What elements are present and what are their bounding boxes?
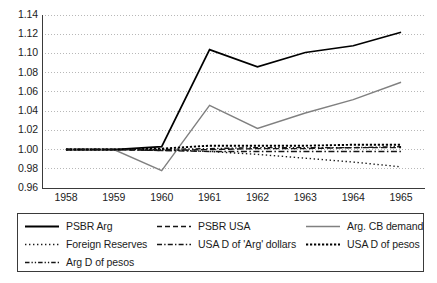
legend-line-swatch (25, 221, 59, 232)
y-axis-tick-label: 1.08 (0, 67, 38, 78)
series-line (66, 32, 401, 149)
legend-item: Arg D of pesos (25, 254, 134, 270)
legend-items: PSBR ArgPSBR USAArg. CB demandForeign Re… (18, 214, 423, 271)
legend-item: PSBR USA (157, 218, 250, 234)
legend-line-swatch (25, 257, 59, 268)
legend-item-label: Arg D of pesos (66, 256, 134, 268)
legend-line-swatch (157, 221, 191, 232)
y-axis-tick-label: 1.06 (0, 86, 38, 97)
y-axis-tick-label: 1.14 (0, 9, 38, 20)
series-line (66, 82, 401, 170)
legend-item-label: Arg. CB demand (347, 220, 423, 232)
legend-item-label: PSBR USA (198, 220, 250, 232)
legend-item: Foreign Reserves (25, 236, 147, 252)
chart-canvas (0, 0, 437, 205)
legend-item-label: PSBR Arg (66, 220, 112, 232)
legend-item-label: USA D of pesos (347, 238, 420, 250)
legend-line-swatch (306, 239, 340, 250)
plot-area: 1.141.121.101.081.061.041.021.000.980.96… (0, 0, 437, 205)
gridlines (42, 15, 425, 169)
legend-item: Arg. CB demand (306, 218, 423, 234)
legend-line-swatch (25, 239, 59, 250)
legend-line-swatch (157, 239, 191, 250)
series-lines (66, 32, 401, 170)
chart-root: 1.141.121.101.081.061.041.021.000.980.96… (0, 0, 437, 283)
y-axis-tick-label: 1.12 (0, 28, 38, 39)
chart-legend: PSBR ArgPSBR USAArg. CB demandForeign Re… (17, 213, 424, 272)
y-axis-tick-label: 1.10 (0, 47, 38, 58)
legend-line-swatch (306, 221, 340, 232)
y-axis-tick-label: 1.04 (0, 105, 38, 116)
y-axis-tick-label: 0.96 (0, 182, 38, 193)
y-axis-tick-label: 0.98 (0, 163, 38, 174)
legend-item: PSBR Arg (25, 218, 112, 234)
legend-item: USA D of 'Arg' dollars (157, 236, 296, 252)
legend-item: USA D of pesos (306, 236, 420, 252)
y-axis-tick-label: 1.00 (0, 144, 38, 155)
x-axis-tick-label: 1965 (371, 192, 431, 203)
legend-item-label: Foreign Reserves (66, 238, 147, 250)
legend-item-label: USA D of 'Arg' dollars (198, 238, 296, 250)
y-axis-tick-label: 1.02 (0, 124, 38, 135)
